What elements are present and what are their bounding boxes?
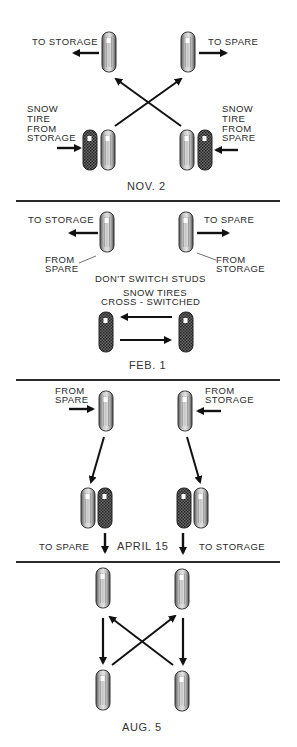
note-dont-switch-studs: DON'T SWITCH STUDS	[95, 274, 206, 284]
date-label: APRIL 15	[117, 540, 168, 552]
date-label: FEB. 1	[129, 359, 166, 371]
label-line: SPARE	[222, 133, 256, 143]
label-from-storage-line2: STORAGE	[205, 395, 254, 405]
label-from-spare-line2: SPARE	[45, 264, 79, 274]
label-to-spare: TO SPARE	[39, 542, 89, 552]
date-label: NOV. 2	[127, 180, 166, 192]
label-to-spare: TO SPARE	[204, 215, 254, 225]
label-to-storage: TO STORAGE	[199, 542, 265, 552]
label-to-storage: TO STORAGE	[28, 215, 94, 225]
panel-aug5-graphics	[96, 568, 189, 711]
label-line: STORAGE	[27, 133, 76, 143]
label-from-storage-line2: STORAGE	[216, 264, 265, 274]
panel-nov2-graphics	[57, 32, 238, 170]
separator-2	[16, 379, 280, 381]
separator-3	[16, 561, 280, 563]
panel-april15-graphics	[69, 391, 221, 553]
label-from-spare-line2: SPARE	[55, 395, 89, 405]
label-to-spare: TO SPARE	[208, 37, 258, 47]
separator-1	[16, 200, 280, 202]
label-to-storage: TO STORAGE	[32, 37, 98, 47]
note-cross-switched: CROSS - SWITCHED	[101, 297, 200, 307]
date-label: AUG. 5	[122, 721, 162, 733]
